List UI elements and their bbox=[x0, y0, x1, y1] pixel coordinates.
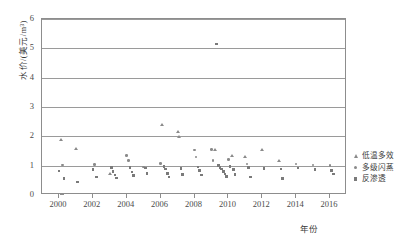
data-point bbox=[177, 135, 181, 138]
data-point bbox=[115, 177, 118, 180]
gridline bbox=[42, 107, 345, 108]
data-point bbox=[58, 170, 61, 173]
data-point bbox=[127, 159, 130, 162]
data-point bbox=[243, 155, 247, 158]
data-point bbox=[249, 176, 252, 179]
y-axis-tick-label: 5 bbox=[8, 42, 34, 52]
data-point bbox=[195, 156, 198, 159]
data-point bbox=[63, 177, 66, 180]
data-point bbox=[112, 170, 115, 173]
y-axis-tick-label: 4 bbox=[8, 72, 34, 82]
data-point bbox=[232, 168, 235, 171]
x-axis-tick bbox=[58, 194, 59, 198]
data-point bbox=[159, 162, 162, 165]
legend-item[interactable]: 反渗透 bbox=[352, 173, 394, 185]
data-point bbox=[263, 167, 266, 170]
data-point bbox=[330, 169, 333, 172]
data-point bbox=[95, 176, 98, 179]
legend-label: 低温多效 bbox=[362, 150, 394, 162]
data-point bbox=[129, 166, 132, 169]
gridline bbox=[42, 78, 345, 79]
data-point bbox=[332, 173, 335, 176]
data-point bbox=[132, 174, 135, 177]
data-point bbox=[260, 148, 264, 151]
data-point bbox=[164, 168, 167, 171]
y-axis-tick bbox=[60, 194, 64, 195]
gridline bbox=[42, 166, 345, 167]
y-axis-tick-label: 0 bbox=[8, 189, 34, 199]
data-point bbox=[110, 166, 113, 169]
data-point bbox=[215, 43, 218, 46]
data-point bbox=[314, 168, 317, 171]
y-axis-tick-label: 1 bbox=[8, 160, 34, 170]
data-point bbox=[144, 167, 147, 170]
data-point bbox=[200, 174, 203, 177]
data-point bbox=[176, 130, 180, 133]
chart-container: 水价/(美元/m³) 年份 01234562000200220042006200… bbox=[0, 0, 411, 245]
data-point bbox=[247, 166, 250, 169]
x-axis-tick bbox=[92, 194, 93, 198]
data-point bbox=[166, 172, 169, 175]
data-point bbox=[131, 171, 134, 174]
x-axis-tick bbox=[329, 194, 330, 198]
plot-area bbox=[41, 18, 346, 194]
x-axis-tick bbox=[227, 194, 228, 198]
legend-marker-icon bbox=[352, 154, 359, 158]
data-point bbox=[146, 172, 149, 175]
data-point bbox=[59, 138, 63, 141]
data-point bbox=[74, 147, 78, 150]
data-point bbox=[197, 166, 200, 169]
x-axis-tick bbox=[295, 194, 296, 198]
chart-legend: 低温多效多级闪蒸反渗透 bbox=[352, 150, 394, 185]
legend-label: 反渗透 bbox=[362, 173, 386, 185]
data-point bbox=[93, 163, 96, 166]
gridline bbox=[42, 136, 345, 137]
data-point bbox=[213, 148, 217, 151]
x-axis-tick bbox=[126, 194, 127, 198]
y-axis-tick-label: 3 bbox=[8, 101, 34, 111]
data-point bbox=[92, 168, 95, 171]
legend-item[interactable]: 低温多效 bbox=[352, 150, 394, 162]
x-axis-title: 年份 bbox=[300, 222, 319, 234]
data-point bbox=[212, 159, 215, 162]
data-point bbox=[76, 181, 79, 184]
data-point bbox=[229, 165, 232, 168]
data-point bbox=[168, 176, 171, 179]
legend-marker-icon bbox=[352, 166, 359, 169]
legend-marker-icon bbox=[352, 177, 359, 181]
data-point bbox=[198, 169, 201, 172]
data-point bbox=[181, 173, 184, 176]
data-point bbox=[193, 149, 196, 152]
x-axis-tick bbox=[194, 194, 195, 198]
data-point bbox=[180, 167, 183, 170]
data-point bbox=[210, 148, 213, 151]
data-point bbox=[225, 175, 228, 178]
y-axis-tick-label: 6 bbox=[8, 13, 34, 23]
data-point bbox=[277, 159, 281, 162]
gridline bbox=[42, 19, 345, 20]
x-axis-tick bbox=[160, 194, 161, 198]
y-axis-tick-label: 2 bbox=[8, 130, 34, 140]
data-point bbox=[230, 154, 234, 157]
legend-label: 多级闪蒸 bbox=[362, 162, 394, 174]
x-axis-tick bbox=[261, 194, 262, 198]
data-point bbox=[297, 167, 300, 170]
legend-item[interactable]: 多级闪蒸 bbox=[352, 162, 394, 174]
data-point bbox=[281, 177, 284, 180]
data-point bbox=[125, 154, 128, 157]
x-axis-tick-label: 2016 bbox=[309, 199, 349, 209]
data-point bbox=[234, 173, 237, 176]
gridline bbox=[42, 48, 345, 49]
data-point bbox=[227, 158, 230, 161]
data-point bbox=[160, 123, 164, 126]
data-point bbox=[280, 168, 283, 171]
